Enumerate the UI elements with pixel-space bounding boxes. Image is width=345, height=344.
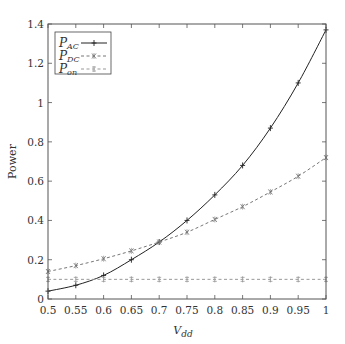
y-tick-label: 1.4 (27, 18, 44, 30)
legend-label-sub: DC (66, 55, 80, 64)
data-marker (296, 173, 300, 179)
legend-label-sub: on (67, 68, 77, 77)
x-axis-title-sub: dd (181, 329, 193, 339)
legend-label-sub: AC (66, 42, 79, 51)
data-marker (241, 204, 245, 210)
y-tick-label: 1 (37, 97, 44, 109)
x-tick-label: 0.9 (262, 304, 279, 316)
y-tick-label: 0 (37, 293, 44, 305)
y-tick-label: 0.4 (27, 214, 44, 226)
axis-labels: 0.50.550.60.650.70.750.80.850.90.95100.2… (6, 18, 329, 339)
x-tick-label: 0.5 (40, 304, 57, 316)
x-tick-label: 0.95 (287, 304, 310, 316)
x-tick-label: 0.6 (95, 304, 112, 316)
data-marker (268, 189, 272, 195)
data-marker (213, 216, 217, 222)
y-tick-label: 0.6 (27, 175, 44, 187)
data-marker (129, 257, 134, 263)
y-tick-label: 1.2 (27, 57, 44, 69)
x-tick-label: 0.75 (175, 304, 198, 316)
x-tick-label: 0.55 (64, 304, 87, 316)
data-marker (73, 282, 78, 288)
legend: PACPDCPon (55, 32, 111, 77)
power-vs-vdd-chart: PACPDCPon 0.50.550.60.650.70.750.80.850.… (0, 0, 345, 344)
y-axis-title: Power (6, 143, 19, 179)
x-axis-title: Vdd (173, 324, 193, 339)
x-tick-label: 0.7 (151, 304, 168, 316)
y-tick-label: 0.2 (27, 254, 44, 266)
data-marker (185, 229, 189, 235)
x-tick-label: 0.65 (120, 304, 143, 316)
x-tick-label: 0.8 (206, 304, 223, 316)
series-line (48, 158, 326, 272)
x-tick-label: 1 (323, 304, 330, 316)
series-p-dc (46, 155, 328, 275)
x-tick-label: 0.85 (231, 304, 254, 316)
y-tick-label: 0.8 (27, 136, 44, 148)
